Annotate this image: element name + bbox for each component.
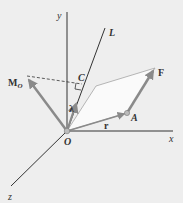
origin-label: O [64, 136, 71, 147]
dashed-projection [27, 76, 82, 84]
z-axis-label: z [7, 191, 12, 202]
point-A [124, 110, 129, 115]
lambda-label: λ [69, 103, 74, 114]
diagram-canvas: y x z L MO C λ F r A O [0, 0, 183, 203]
x-axis-label: x [168, 133, 174, 144]
force-label: F [158, 67, 164, 78]
position-label: r [104, 120, 109, 131]
moment-vector [29, 80, 67, 131]
moment-label: MO [8, 77, 23, 90]
point-C-label: C [78, 72, 85, 83]
origin-point [64, 128, 70, 134]
right-angle-marker [75, 83, 81, 90]
point-A-label: A [130, 112, 138, 123]
y-axis-label: y [56, 10, 62, 21]
axis-L-label: L [108, 27, 115, 38]
z-axis [11, 131, 67, 186]
diagram-svg: y x z L MO C λ F r A O [0, 0, 183, 203]
